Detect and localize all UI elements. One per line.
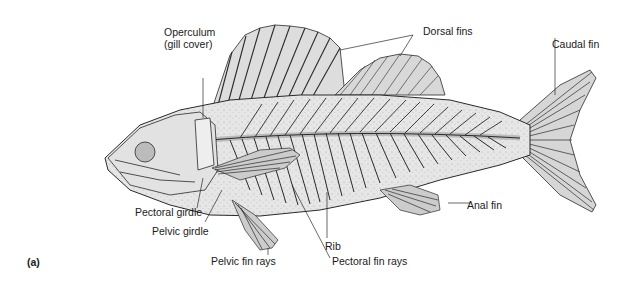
- label-rib: Rib: [325, 240, 341, 252]
- label-dorsal-fins: Dorsal fins: [423, 25, 473, 37]
- label-pectoral-fin-rays: Pectoral fin rays: [332, 255, 407, 267]
- fish-skeleton-illustration: [0, 0, 628, 283]
- label-caudal-fin: Caudal fin: [552, 38, 599, 50]
- label-pectoral-girdle: Pectoral girdle: [135, 206, 202, 218]
- soft-dorsal-fin: [335, 54, 445, 95]
- panel-label: (a): [27, 256, 40, 268]
- label-operculum-line2: (gill cover): [164, 38, 215, 50]
- label-operculum: Operculum (gill cover): [164, 26, 215, 50]
- label-pelvic-girdle: Pelvic girdle: [152, 225, 209, 237]
- caudal-fin: [520, 70, 596, 212]
- anal-fin: [380, 185, 440, 215]
- label-pelvic-fin-rays: Pelvic fin rays: [211, 255, 276, 267]
- label-operculum-line1: Operculum: [164, 26, 215, 38]
- label-anal-fin: Anal fin: [467, 199, 502, 211]
- fish-skeleton-diagram: Operculum (gill cover) Dorsal fins Cauda…: [0, 0, 628, 283]
